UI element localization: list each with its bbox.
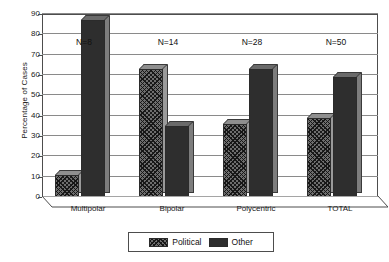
legend-item-other: Other [209,237,253,247]
legend-label-political: Political [172,237,201,247]
bar-total-political [307,118,331,197]
y-tick-label-90: 90 [16,10,40,18]
y-tick-label-50: 50 [16,91,40,99]
bar-face [249,69,273,197]
y-tick-label-0: 0 [16,193,40,201]
bar-face [139,69,163,197]
n-label-polycentric: N=28 [210,37,294,47]
x-label-polycentric: Polycentric [214,204,298,213]
legend-label-other: Other [232,237,253,247]
bar-top-face [223,119,252,124]
y-tick-mark-70 [38,55,42,56]
bar-total-other [333,77,357,197]
y-tick-mark-30 [38,136,42,137]
bar-top-face [165,121,194,126]
bar-side-face [273,65,278,193]
bar-top-face [307,113,336,118]
bar-face [81,20,105,197]
bar-side-face [189,122,194,193]
legend-swatch-political-icon [149,238,168,247]
bar-top-face [55,170,84,175]
bar-face [307,118,331,197]
bar-top-face [249,64,278,69]
legend-swatch-other-icon [209,238,228,247]
y-tick-label-40: 40 [16,112,40,120]
bar-face [223,124,247,197]
y-tick-mark-10 [38,177,42,178]
legend-item-political: Political [149,237,201,247]
y-tick-mark-50 [38,95,42,96]
y-tick-label-10: 10 [16,173,40,181]
y-tick-label-80: 80 [16,30,40,38]
bar-polycentric-other [249,69,273,197]
x-label-bipolar: Bipolar [130,204,214,213]
y-tick-mark-60 [38,75,42,76]
n-label-multipolar: N=8 [42,37,126,47]
y-tick-mark-40 [38,116,42,117]
y-tick-label-60: 60 [16,71,40,79]
bar-top-face [139,64,168,69]
y-tick-mark-20 [38,156,42,157]
bar-bipolar-political [139,69,163,197]
x-label-multipolar: Multipolar [46,204,130,213]
bar-multipolar-political [55,175,79,197]
y-tick-label-70: 70 [16,51,40,59]
bar-top-face [333,72,362,77]
bar-face [55,175,79,197]
y-tick-label-20: 20 [16,152,40,160]
n-label-bipolar: N=14 [126,37,210,47]
y-tick-label-30: 30 [16,132,40,140]
bar-side-face [357,73,362,193]
bar-multipolar-other [81,20,105,197]
y-tick-mark-90 [38,14,42,15]
x-label-total: TOTAL [298,204,382,213]
bar-bipolar-other [165,126,189,197]
gridline-90 [42,13,378,14]
n-label-total: N=50 [294,37,378,47]
y-tick-mark-80 [38,34,42,35]
bar-polycentric-political [223,124,247,197]
bar-face [165,126,189,197]
bar-chart: Percentage of Cases N=8N=14N=28N=50 0102… [0,0,389,262]
chart-legend: Political Other [128,232,274,252]
plot-area: N=8N=14N=28N=50 [42,14,378,197]
bar-face [333,77,357,197]
